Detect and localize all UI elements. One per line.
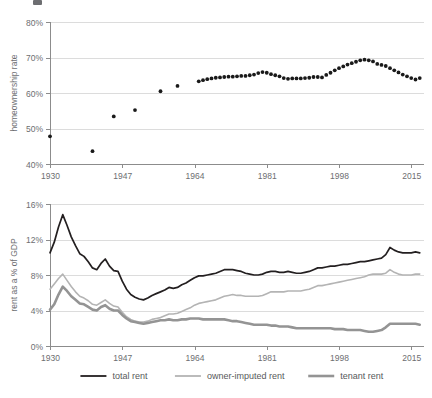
- data-point: [375, 62, 379, 66]
- x-tick-label: 1981: [258, 171, 277, 181]
- x-tick-label: 1947: [113, 171, 132, 181]
- data-point: [414, 78, 418, 82]
- data-point: [401, 73, 405, 77]
- data-point: [320, 75, 324, 79]
- x-tick-label: 1930: [41, 353, 60, 363]
- x-tick-label: 1998: [330, 353, 349, 363]
- x-tick-label: 1964: [186, 171, 205, 181]
- x-tick-label: 1998: [330, 171, 349, 181]
- data-point: [261, 70, 265, 74]
- data-point: [112, 115, 116, 119]
- panel-rent-share-gdp: 0%4%8%12%16%193019471964198119982015rent…: [0, 196, 432, 398]
- data-point: [239, 74, 243, 78]
- x-tick-label: 1981: [258, 353, 277, 363]
- data-point: [244, 74, 248, 78]
- legend-label: total rent: [112, 371, 148, 381]
- data-point: [409, 76, 413, 80]
- data-point: [265, 71, 269, 75]
- data-point: [397, 71, 401, 75]
- line-series-tenant-rent: [50, 287, 420, 332]
- data-point: [341, 64, 345, 68]
- x-tick-label: 2015: [402, 171, 421, 181]
- data-point: [197, 79, 201, 83]
- line-series-total-rent: [50, 215, 420, 300]
- data-point: [282, 76, 286, 80]
- data-point: [350, 61, 354, 65]
- data-point: [252, 73, 256, 77]
- y-axis-title: homeownership rate: [9, 54, 19, 131]
- data-point: [231, 75, 235, 79]
- y-tick-label: 0%: [31, 342, 44, 352]
- y-tick-label: 16%: [26, 200, 43, 210]
- data-point: [354, 60, 358, 64]
- rent-line-chart: 0%4%8%12%16%193019471964198119982015rent…: [0, 196, 432, 398]
- data-point: [358, 58, 362, 62]
- legend-label: tenant rent: [340, 371, 384, 381]
- data-point: [418, 76, 422, 80]
- y-tick-label: 12%: [26, 235, 43, 245]
- y-tick-label: 4%: [31, 306, 44, 316]
- y-tick-label: 40%: [26, 160, 43, 170]
- x-tick-label: 1947: [113, 353, 132, 363]
- data-point: [392, 68, 396, 72]
- data-point: [295, 77, 299, 81]
- data-point: [235, 74, 239, 78]
- y-tick-label: 8%: [31, 271, 44, 281]
- scatter-series-homeownership: [48, 58, 422, 153]
- data-point: [222, 75, 226, 79]
- data-point: [176, 84, 180, 88]
- y-tick-label: 80%: [26, 18, 43, 28]
- data-point: [269, 72, 273, 76]
- data-point: [337, 66, 341, 70]
- y-tick-label: 50%: [26, 124, 43, 134]
- homeownership-scatter-chart: 40%50%60%70%80%193019471964198119982015h…: [0, 0, 432, 196]
- x-tick-label: 2015: [402, 353, 421, 363]
- data-point: [214, 76, 218, 80]
- data-point: [324, 73, 328, 77]
- line-series-owner-imputed-rent: [50, 270, 420, 322]
- data-point: [227, 75, 231, 79]
- data-point: [48, 134, 52, 138]
- data-point: [248, 73, 252, 77]
- x-tick-label: 1964: [186, 353, 205, 363]
- data-point: [278, 74, 282, 78]
- panel-homeownership-rate: 40%50%60%70%80%193019471964198119982015h…: [0, 0, 432, 196]
- data-point: [205, 77, 209, 81]
- data-point: [273, 73, 277, 77]
- legend-label: owner-imputed rent: [207, 371, 285, 381]
- data-point: [256, 71, 260, 75]
- data-point: [218, 75, 222, 79]
- data-point: [380, 63, 384, 67]
- data-point: [333, 68, 337, 72]
- data-point: [91, 149, 95, 153]
- data-point: [312, 75, 316, 79]
- data-point: [290, 77, 294, 81]
- data-point: [299, 77, 303, 81]
- data-point: [346, 63, 350, 67]
- data-point: [329, 71, 333, 75]
- data-point: [363, 58, 367, 62]
- y-axis-title: rent as a % of GDP: [9, 238, 19, 312]
- data-point: [384, 64, 388, 68]
- data-point: [201, 78, 205, 82]
- data-point: [405, 74, 409, 78]
- figure-two-panel-chart: 40%50%60%70%80%193019471964198119982015h…: [0, 0, 432, 398]
- y-tick-label: 60%: [26, 89, 43, 99]
- data-point: [307, 76, 311, 80]
- data-point: [133, 108, 137, 112]
- data-point: [303, 76, 307, 80]
- chart-legend: total rentowner-imputed renttenant rent: [80, 371, 383, 381]
- data-point: [388, 66, 392, 70]
- data-point: [286, 77, 290, 81]
- data-point: [371, 60, 375, 64]
- data-point: [316, 75, 320, 79]
- data-point: [159, 89, 163, 93]
- x-tick-label: 1930: [41, 171, 60, 181]
- y-tick-label: 70%: [26, 53, 43, 63]
- data-point: [367, 58, 371, 62]
- data-point: [210, 77, 214, 81]
